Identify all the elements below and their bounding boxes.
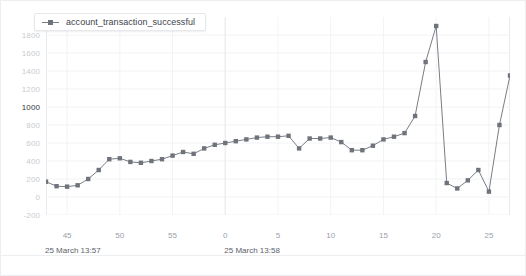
x-tick-label: 5 — [276, 231, 280, 240]
legend-series-marker-icon — [42, 18, 59, 27]
series-point-marker — [75, 183, 79, 187]
series-point-marker — [118, 156, 122, 160]
series-point-marker — [508, 73, 510, 77]
series-point-marker — [434, 24, 438, 28]
y-tick-label: 800 — [26, 121, 40, 130]
y-tick-label: 1200 — [22, 85, 40, 94]
series-point-marker — [86, 177, 90, 181]
x-tick-label: 20 — [432, 231, 441, 240]
series-point-marker — [265, 135, 269, 139]
series-point-marker — [181, 150, 185, 154]
x-tick-label: 55 — [168, 231, 177, 240]
axis-bottom-rule — [0, 255, 526, 256]
x-tick-label: 0 — [223, 231, 227, 240]
y-tick-label: 1600 — [22, 49, 40, 58]
series-point-marker — [286, 134, 290, 138]
y-tick-label: 1000 — [22, 103, 40, 112]
x-tick-label: 10 — [326, 231, 335, 240]
series-point-marker — [445, 181, 449, 185]
series-point-marker — [139, 161, 143, 165]
y-tick-label: 400 — [26, 157, 40, 166]
series-point-marker — [360, 148, 364, 152]
y-tick-label: 200 — [26, 175, 40, 184]
series-point-marker — [497, 123, 501, 127]
series-point-marker — [487, 189, 491, 193]
series-point-marker — [54, 184, 58, 188]
series-point-marker — [318, 136, 322, 140]
series-point-marker — [350, 148, 354, 152]
series-point-marker — [371, 144, 375, 148]
series-point-marker — [276, 135, 280, 139]
series-point-marker — [329, 135, 333, 139]
series-point-marker — [339, 140, 343, 144]
series-point-marker — [65, 184, 69, 188]
series-point-marker — [149, 159, 153, 163]
series-point-marker — [223, 141, 227, 145]
y-tick-label: 0 — [35, 193, 40, 202]
y-tick-label: 1800 — [22, 31, 40, 40]
series-point-marker — [244, 137, 248, 141]
series-point-marker — [413, 114, 417, 118]
y-tick-label: 600 — [26, 139, 40, 148]
series-point-marker — [213, 143, 217, 147]
series-point-marker — [160, 157, 164, 161]
x-tick-label: 25 — [484, 231, 493, 240]
x-tick-label: 50 — [115, 231, 124, 240]
series-point-marker — [297, 146, 301, 150]
series-point-marker — [191, 152, 195, 156]
x-axis: 455055051015202525 March 13:5725 March 1… — [0, 215, 526, 255]
series-point-marker — [128, 160, 132, 164]
series-point-marker — [381, 137, 385, 141]
series-point-marker — [423, 60, 427, 64]
series-point-marker — [455, 186, 459, 190]
series-point-marker — [255, 135, 259, 139]
series-point-marker — [476, 168, 480, 172]
chart-panel: 180016001400120010008006004002000-200 45… — [0, 0, 526, 276]
legend-item-label: account_transaction_successful — [66, 17, 195, 27]
series-point-marker — [107, 157, 111, 161]
series-point-marker — [202, 146, 206, 150]
series-point-marker — [402, 131, 406, 135]
series-point-marker — [392, 135, 396, 139]
series-point-marker — [234, 139, 238, 143]
x-tick-label: 15 — [379, 231, 388, 240]
series-account-transaction-successful — [46, 17, 510, 215]
plot-area — [46, 17, 510, 215]
y-tick-label: 1400 — [22, 67, 40, 76]
chart-legend[interactable]: account_transaction_successful — [34, 13, 206, 31]
x-axis-minute-label: 25 March 13:57 — [45, 246, 101, 255]
series-point-marker — [46, 180, 48, 184]
y-axis: 180016001400120010008006004002000-200 — [0, 0, 44, 232]
series-point-marker — [307, 136, 311, 140]
series-line — [46, 26, 510, 192]
x-tick-label: 45 — [63, 231, 72, 240]
x-axis-minute-label: 25 March 13:58 — [224, 246, 280, 255]
series-point-marker — [466, 178, 470, 182]
series-point-marker — [97, 168, 101, 172]
series-point-marker — [170, 153, 174, 157]
